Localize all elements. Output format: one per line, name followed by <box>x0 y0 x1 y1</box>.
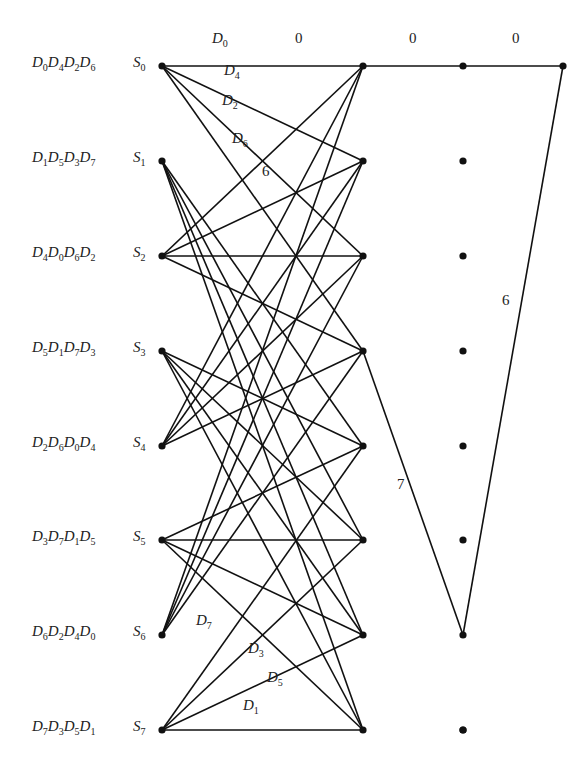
trellis-diagram <box>0 0 583 773</box>
trellis-branch <box>162 66 363 635</box>
branch-subset-label: D1 <box>243 697 259 716</box>
state-node <box>158 631 165 638</box>
state-node <box>359 62 366 69</box>
branch-subset-label: D5 <box>267 669 283 688</box>
state-node <box>459 62 466 69</box>
state-label: S1 <box>133 149 146 168</box>
distance-label: 6 <box>262 163 270 180</box>
state-node <box>158 347 165 354</box>
state-node <box>459 631 466 638</box>
subset-sequence-label: D6D2D4D0 <box>32 623 95 642</box>
state-node <box>359 631 366 638</box>
state-node <box>359 252 366 259</box>
state-node <box>359 726 366 733</box>
branch-subset-label: D4 <box>224 62 240 81</box>
state-node <box>459 726 466 733</box>
state-node <box>158 536 165 543</box>
subset-sequence-label: D0D4D2D6 <box>32 54 95 73</box>
state-node <box>158 442 165 449</box>
subset-sequence-label: D7D3D5D1 <box>32 718 95 737</box>
state-node <box>359 536 366 543</box>
state-node <box>158 157 165 164</box>
state-node <box>158 726 165 733</box>
subset-sequence-label: D3D7D1D5 <box>32 528 95 547</box>
branch-subset-label: D3 <box>248 640 264 659</box>
state-node <box>559 62 566 69</box>
state-node <box>459 536 466 543</box>
subset-sequence-label: D2D6D0D4 <box>32 434 95 453</box>
state-label: S5 <box>133 528 146 547</box>
distance-label: 0 <box>409 30 417 47</box>
trellis-branch <box>162 256 363 635</box>
error-event-path <box>363 351 463 635</box>
state-label: S2 <box>133 244 146 263</box>
state-label: S6 <box>133 623 146 642</box>
state-label: S4 <box>133 434 146 453</box>
state-label: S0 <box>133 54 146 73</box>
error-event-path <box>463 66 563 635</box>
branch-subset-label: D2 <box>222 92 238 111</box>
state-node <box>158 252 165 259</box>
state-node <box>359 157 366 164</box>
state-node <box>459 252 466 259</box>
subset-sequence-label: D5D1D7D3 <box>32 339 95 358</box>
state-node <box>459 347 466 354</box>
state-label: S7 <box>133 718 146 737</box>
state-node <box>459 157 466 164</box>
state-node <box>459 442 466 449</box>
state-node <box>158 62 165 69</box>
state-label: S3 <box>133 339 146 358</box>
subset-sequence-label: D4D0D6D2 <box>32 244 95 263</box>
subset-sequence-label: D1D5D3D7 <box>32 149 95 168</box>
branch-subset-label: D6 <box>232 130 248 149</box>
branch-subset-label: D0 <box>212 30 228 49</box>
distance-label: 6 <box>502 292 510 309</box>
state-node <box>359 347 366 354</box>
distance-label: 0 <box>512 30 520 47</box>
branch-subset-label: D7 <box>196 612 212 631</box>
trellis-branch <box>162 66 363 161</box>
trellis-branch <box>162 446 363 730</box>
state-node <box>359 442 366 449</box>
distance-label: 0 <box>295 30 303 47</box>
distance-label: 7 <box>397 476 405 493</box>
